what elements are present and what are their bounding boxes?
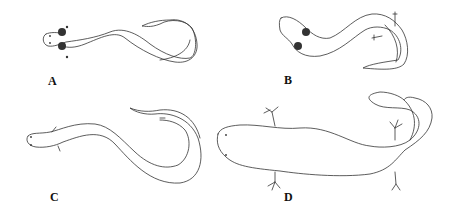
panel-a-limb-icon [66, 56, 68, 58]
panel-label-d: D [284, 190, 293, 205]
panel-label-a: A [48, 74, 57, 89]
panel-c-body-outline [27, 108, 201, 183]
panel-b-gill-icon [302, 28, 310, 36]
panel-c-eye-icon [30, 144, 32, 146]
figure-drawings [0, 0, 463, 210]
panel-b-hindlimb [393, 12, 397, 26]
panel-d-eye-icon [225, 134, 227, 136]
panel-a-gill-left-icon [58, 28, 66, 36]
panel-d-hindlimb-right [392, 172, 400, 190]
panel-c-drawing [27, 108, 201, 183]
panel-a-eye-icon [49, 42, 51, 44]
panel-b-gill-icon [294, 42, 302, 50]
panel-d-forelimb-left [264, 107, 278, 126]
panel-d-forelimb-right [268, 172, 280, 190]
panel-d-body-outline [217, 92, 432, 176]
panel-a-limb-icon [66, 26, 68, 28]
panel-label-b: B [284, 73, 292, 88]
panel-a-gill-right-icon [58, 42, 66, 50]
panel-b-hindlimb [372, 35, 382, 40]
panel-label-c: C [50, 190, 59, 205]
panel-c-eye-icon [30, 136, 32, 138]
panel-a-drawing [43, 20, 197, 63]
panel-d-eye-icon [225, 154, 227, 156]
panel-a-eye-icon [49, 35, 51, 37]
panel-d-drawing [217, 92, 432, 190]
panel-b-drawing [279, 12, 407, 69]
panel-d-tail-fold [404, 100, 415, 140]
panel-b-body-outline [279, 14, 407, 69]
panel-d-hindlimb-left [390, 120, 402, 140]
